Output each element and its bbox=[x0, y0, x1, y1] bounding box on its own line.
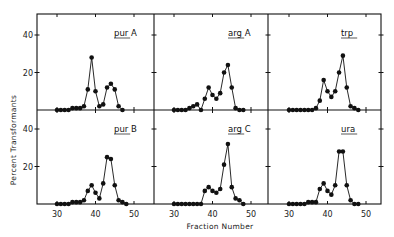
data-point bbox=[321, 78, 326, 83]
data-point bbox=[329, 192, 334, 197]
data-point bbox=[222, 70, 227, 75]
data-point bbox=[329, 95, 334, 100]
data-point bbox=[222, 162, 227, 167]
data-point bbox=[341, 149, 346, 154]
x-tick-label: 40 bbox=[322, 210, 332, 219]
series-group bbox=[55, 53, 361, 206]
panel-title: arg A bbox=[228, 28, 251, 38]
series-line bbox=[174, 144, 243, 204]
data-point bbox=[109, 157, 114, 162]
x-tick-label: 30 bbox=[52, 210, 62, 219]
data-point bbox=[109, 81, 114, 86]
data-point bbox=[105, 85, 110, 90]
data-point bbox=[325, 89, 330, 94]
y-tick-label: 40 bbox=[23, 125, 33, 134]
data-point bbox=[82, 198, 87, 203]
data-point bbox=[356, 202, 361, 207]
data-point bbox=[199, 202, 204, 207]
x-tick-label: 50 bbox=[129, 210, 139, 219]
data-point bbox=[226, 63, 231, 68]
data-point bbox=[82, 104, 87, 109]
panel-frames bbox=[37, 14, 381, 204]
data-point bbox=[325, 189, 330, 194]
data-point bbox=[195, 102, 200, 107]
panel-ura bbox=[287, 149, 361, 206]
y-axis-label: Percent Transformants bbox=[9, 95, 18, 185]
data-point bbox=[218, 91, 223, 96]
data-point bbox=[333, 89, 338, 94]
data-point bbox=[344, 183, 349, 188]
x-tick-label: 50 bbox=[361, 210, 371, 219]
data-point bbox=[89, 55, 94, 60]
panel-trp bbox=[287, 53, 361, 112]
x-tick-label: 30 bbox=[169, 210, 179, 219]
x-tick-label: 30 bbox=[284, 210, 294, 219]
data-point bbox=[199, 108, 204, 113]
data-point bbox=[210, 93, 215, 98]
data-point bbox=[241, 108, 246, 113]
data-point bbox=[344, 85, 349, 90]
panel-title: pur B bbox=[114, 124, 137, 134]
y-tick-label: 40 bbox=[23, 31, 33, 40]
panel-title: pur A bbox=[114, 28, 137, 38]
x-tick-label: 50 bbox=[246, 210, 256, 219]
data-point bbox=[86, 189, 91, 194]
y-tick-label: 20 bbox=[23, 69, 33, 78]
panel-title: arg C bbox=[228, 124, 251, 134]
data-point bbox=[229, 185, 234, 190]
data-point bbox=[206, 85, 211, 90]
data-point bbox=[241, 202, 246, 207]
data-point bbox=[237, 198, 242, 203]
panel-titles: pur Aarg Atrppur Barg Cura bbox=[114, 28, 357, 134]
data-point bbox=[203, 189, 208, 194]
data-point bbox=[333, 183, 338, 188]
data-point bbox=[356, 108, 361, 113]
panel-title: ura bbox=[341, 124, 355, 134]
data-point bbox=[318, 98, 323, 103]
data-point bbox=[314, 200, 319, 205]
panel-title: trp bbox=[341, 28, 353, 38]
panel-arg-a bbox=[172, 63, 246, 113]
data-point bbox=[101, 181, 106, 186]
x-tick-label: 40 bbox=[207, 210, 217, 219]
data-point bbox=[314, 106, 319, 111]
data-point bbox=[112, 87, 117, 92]
data-point bbox=[112, 183, 117, 188]
x-tick-label: 40 bbox=[90, 210, 100, 219]
data-point bbox=[318, 187, 323, 192]
data-point bbox=[348, 198, 353, 203]
panel-pur-b bbox=[55, 155, 129, 206]
data-point bbox=[226, 142, 231, 147]
data-point bbox=[321, 181, 326, 186]
data-point bbox=[101, 102, 106, 107]
panel-arg-c bbox=[172, 142, 246, 207]
data-point bbox=[214, 190, 219, 195]
multi-panel-chart: 30405030405030405020402040 pur Aarg Atrp… bbox=[0, 0, 394, 237]
axis-ticks bbox=[35, 14, 384, 204]
data-point bbox=[89, 183, 94, 188]
data-point bbox=[97, 196, 102, 201]
series-line bbox=[289, 56, 358, 110]
data-point bbox=[86, 87, 91, 92]
outer-frame bbox=[37, 14, 381, 204]
data-point bbox=[337, 70, 342, 75]
data-point bbox=[93, 190, 98, 195]
panel-pur-a bbox=[55, 55, 125, 112]
data-point bbox=[116, 104, 121, 109]
data-point bbox=[214, 96, 219, 101]
data-point bbox=[206, 185, 211, 190]
data-point bbox=[203, 96, 208, 101]
data-point bbox=[124, 202, 129, 207]
data-point bbox=[229, 85, 234, 90]
data-point bbox=[341, 53, 346, 58]
series-line bbox=[57, 157, 126, 204]
y-tick-label: 20 bbox=[23, 163, 33, 172]
data-point bbox=[93, 89, 98, 94]
data-point bbox=[120, 108, 125, 113]
series-line bbox=[289, 152, 358, 205]
x-axis-label: Fraction Number bbox=[187, 222, 255, 231]
data-point bbox=[218, 187, 223, 192]
